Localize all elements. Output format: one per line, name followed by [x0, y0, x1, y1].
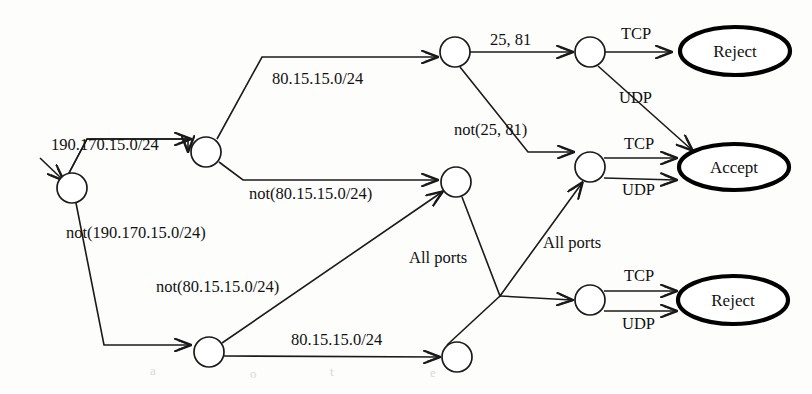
edge-entry	[40, 158, 63, 180]
edge-n5-to-n9	[500, 296, 572, 300]
edge-label-not-80-15-lower: not(80.15.15.0/24)	[156, 277, 279, 296]
terminal-reject-top-label: Reject	[713, 42, 757, 61]
svg-text:o: o	[250, 366, 257, 381]
edge-label-tcp-bottom: TCP	[624, 266, 654, 285]
edge-label-25-81: 25, 81	[490, 30, 531, 49]
edge-label-190-170: 190.170.15.0/24	[51, 135, 159, 154]
edge-label-udp-bottom: UDP	[622, 314, 655, 333]
edge-label-udp-middle: UDP	[622, 180, 655, 199]
edge-n6-junction	[447, 296, 500, 345]
state-node-n4[interactable]	[440, 37, 470, 67]
diagram-canvas: a o t e	[0, 0, 812, 394]
scan-artifact-text: a o t e	[150, 363, 436, 381]
terminal-accept[interactable]: Accept	[679, 144, 789, 190]
edge-label-80-15-top: 80.15.15.0/24	[272, 69, 363, 88]
state-node-start[interactable]	[57, 173, 87, 203]
edge-label-all-ports-upper: All ports	[409, 248, 467, 267]
edge-label-udp-top: UDP	[619, 88, 652, 107]
edge-label-tcp-middle: TCP	[624, 134, 654, 153]
terminal-accept-label: Accept	[710, 158, 758, 177]
state-node-n2[interactable]	[191, 137, 221, 167]
edge-label-not-80-15-upper: not(80.15.15.0/24)	[249, 184, 372, 203]
decision-tree-diagram: a o t e	[0, 0, 812, 394]
edge-label-80-15-bottom: 80.15.15.0/24	[291, 330, 382, 349]
state-node-n3[interactable]	[194, 337, 224, 367]
edge-label-tcp-top: TCP	[621, 24, 651, 43]
state-node-n5[interactable]	[441, 167, 471, 197]
state-node-n9[interactable]	[575, 285, 605, 315]
svg-text:e: e	[430, 365, 436, 380]
terminal-reject-bottom[interactable]: Reject	[678, 276, 788, 324]
edge-n4-to-n8	[460, 67, 573, 152]
state-node-n7[interactable]	[575, 37, 605, 67]
state-node-n8[interactable]	[575, 152, 605, 182]
edge-n3-to-n5	[222, 192, 442, 343]
edge-n3-to-n6	[224, 356, 439, 357]
edge-label-not-190-170: not(190.170.15.0/24)	[66, 223, 206, 242]
terminal-reject-top[interactable]: Reject	[680, 27, 790, 75]
svg-text:t: t	[330, 364, 334, 379]
edge-label-not-25-81: not(25, 81)	[454, 120, 527, 139]
edge-label-all-ports-middle: All ports	[543, 233, 601, 252]
terminal-reject-bottom-label: Reject	[711, 291, 755, 310]
edge-n2-to-n5	[219, 162, 437, 180]
state-node-n6[interactable]	[442, 342, 472, 372]
svg-text:a: a	[150, 363, 156, 378]
